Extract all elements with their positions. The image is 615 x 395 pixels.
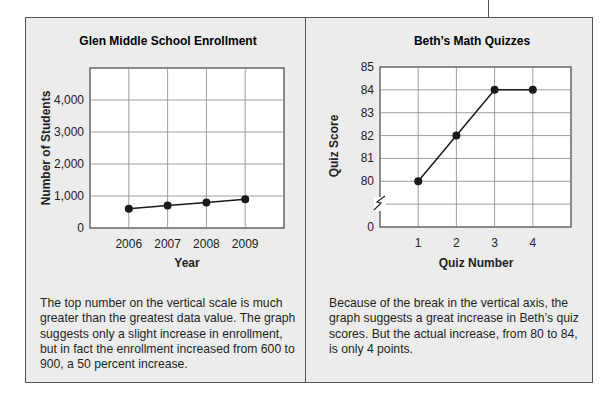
quiz-y-tick-label: 80 <box>361 174 375 188</box>
enrollment-x-axis-label: Year <box>174 256 200 270</box>
quiz-y-tick-label: 82 <box>361 129 375 143</box>
quiz-data-point <box>452 132 460 140</box>
quiz-y-axis-label: Quiz Score <box>327 114 341 177</box>
enrollment-y-tick-label: 4,000 <box>54 93 84 107</box>
quiz-y-ticks: 0808182838485 <box>361 60 375 234</box>
enrollment-y-tick-label: 3,000 <box>54 125 84 139</box>
enrollment-chart: Glen Middle School Enrollment 01,0002,00… <box>39 34 284 270</box>
enrollment-y-tick-label: 1,000 <box>54 189 84 203</box>
enrollment-data-point <box>241 195 249 203</box>
enrollment-caption: The top number on the vertical scale is … <box>40 296 298 372</box>
quiz-y-tick-label: 0 <box>367 220 374 234</box>
enrollment-data-point <box>202 198 210 206</box>
enrollment-x-ticks: 2006200720082009 <box>115 237 258 251</box>
quiz-x-axis-label: Quiz Number <box>439 256 514 270</box>
enrollment-x-tick-label: 2006 <box>115 237 142 251</box>
quiz-data-point <box>414 177 422 185</box>
enrollment-y-tick-label: 0 <box>77 221 84 235</box>
enrollment-data-point <box>164 202 172 210</box>
axis-break-symbol <box>374 196 386 211</box>
quiz-plot-area <box>380 67 571 227</box>
enrollment-x-tick-label: 2008 <box>193 237 220 251</box>
quiz-data-point <box>529 86 537 94</box>
enrollment-data-point <box>125 205 133 213</box>
enrollment-y-ticks: 01,0002,0003,0004,000 <box>54 93 84 235</box>
enrollment-x-tick-label: 2007 <box>154 237 181 251</box>
quiz-caption: Because of the break in the vertical axi… <box>329 296 587 357</box>
quiz-x-tick-label: 1 <box>415 236 422 250</box>
quiz-x-ticks: 1234 <box>415 236 537 250</box>
enrollment-x-tick-label: 2009 <box>232 237 259 251</box>
enrollment-y-axis-label: Number of Students <box>39 90 53 205</box>
quiz-x-tick-label: 2 <box>453 236 460 250</box>
quiz-data-point <box>491 86 499 94</box>
quiz-x-tick-label: 4 <box>529 236 536 250</box>
quiz-y-tick-label: 84 <box>361 83 375 97</box>
quiz-x-tick-label: 3 <box>491 236 498 250</box>
quiz-y-tick-label: 83 <box>361 106 375 120</box>
quiz-chart: Beth’s Math Quizzes 0808182838485 1234 Q… <box>327 34 571 270</box>
quiz-y-tick-label: 81 <box>361 151 375 165</box>
enrollment-y-tick-label: 2,000 <box>54 157 84 171</box>
quiz-chart-title: Beth’s Math Quizzes <box>414 34 531 48</box>
quiz-y-tick-label: 85 <box>361 60 375 74</box>
enrollment-chart-title: Glen Middle School Enrollment <box>79 34 256 48</box>
